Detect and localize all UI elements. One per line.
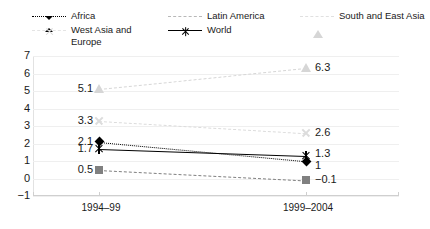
data-label: 1.7 [69, 143, 93, 154]
data-label: 1 [315, 160, 321, 171]
y-axis-tick-label: 0 [8, 173, 30, 184]
legend-column-2: Latin America World [168, 10, 286, 38]
y-axis-tick-label: 6 [8, 68, 30, 79]
star-marker-icon [301, 151, 311, 161]
data-label: 3.3 [69, 115, 93, 126]
square-marker-icon [181, 13, 189, 21]
x-axis-tick [99, 192, 100, 196]
series-line-west-asia-and-europe [99, 121, 306, 134]
legend-key-africa [32, 11, 66, 23]
y-axis-tick-label: −1 [8, 190, 30, 201]
x-axis-tick [398, 192, 399, 196]
legend-label-world: World [207, 24, 232, 36]
triangle-marker-icon [94, 84, 104, 93]
triangle-marker-icon [301, 63, 311, 72]
y-axis-tick-label: 2 [8, 138, 30, 149]
y-axis-tick-label: 1 [8, 155, 30, 166]
legend-key-latin-america [168, 11, 202, 23]
triangle-marker-icon [313, 13, 321, 21]
grid-line [33, 196, 399, 197]
grid-line [33, 161, 399, 162]
y-axis-tick-label: 5 [8, 85, 30, 96]
legend-column-1: Africa West Asia and Europe [32, 10, 150, 50]
y-axis-tick-label: 4 [8, 103, 30, 114]
legend-key-world [168, 25, 202, 37]
x-marker-icon [94, 116, 104, 126]
data-label: 1.3 [315, 148, 330, 159]
legend-label-africa: Africa [71, 10, 95, 22]
star-marker-icon [181, 27, 189, 35]
x-axis-label-period-2: 1999–2004 [263, 202, 353, 213]
legend-item-south-and-east-asia[interactable]: South and East Asia [300, 10, 430, 22]
star-marker-icon [94, 144, 104, 154]
plot-area: 5.16.33.32.60.5−0.12.111.71.3 [33, 56, 399, 196]
data-label: 5.1 [69, 83, 93, 94]
data-label: 6.3 [315, 62, 330, 73]
series-line-latin-america [99, 170, 306, 181]
legend-item-west-asia-and-europe[interactable]: West Asia and Europe [32, 24, 150, 48]
series-line-south-and-east-asia [99, 68, 306, 90]
grid-line [33, 74, 399, 75]
grid-line [33, 109, 399, 110]
legend-label-latin-america: Latin America [207, 10, 265, 22]
legend-item-latin-america[interactable]: Latin America [168, 10, 286, 22]
legend-item-world[interactable]: World [168, 24, 286, 36]
grid-line [33, 179, 399, 180]
legend-key-west-asia-and-europe [32, 25, 66, 37]
y-axis-tick-labels: 76543210−1 [0, 56, 30, 196]
data-label: −0.1 [315, 174, 337, 185]
x-marker-icon [301, 128, 311, 138]
legend-column-3: South and East Asia [300, 10, 430, 24]
chart-legend: Africa West Asia and Europe Latin Americ… [28, 10, 403, 56]
grid-line [33, 126, 399, 127]
x-axis-label-period-1: 1994–99 [56, 202, 146, 213]
grid-line [33, 56, 399, 57]
series-line-world [99, 149, 306, 157]
data-label: 2.6 [315, 127, 330, 138]
square-marker-icon [95, 166, 103, 174]
x-marker-icon [45, 27, 53, 35]
legend-label-south-and-east-asia: South and East Asia [339, 10, 425, 22]
legend-item-africa[interactable]: Africa [32, 10, 150, 22]
y-axis-tick-label: 3 [8, 120, 30, 131]
diamond-marker-icon [45, 13, 53, 21]
y-axis-tick-label: 7 [8, 50, 30, 61]
legend-key-south-and-east-asia [300, 11, 334, 23]
data-label: 0.5 [69, 164, 93, 175]
x-axis-tick [33, 192, 34, 196]
legend-label-west-asia-and-europe: West Asia and Europe [71, 24, 150, 47]
x-axis-tick [306, 192, 307, 196]
square-marker-icon [302, 176, 310, 184]
